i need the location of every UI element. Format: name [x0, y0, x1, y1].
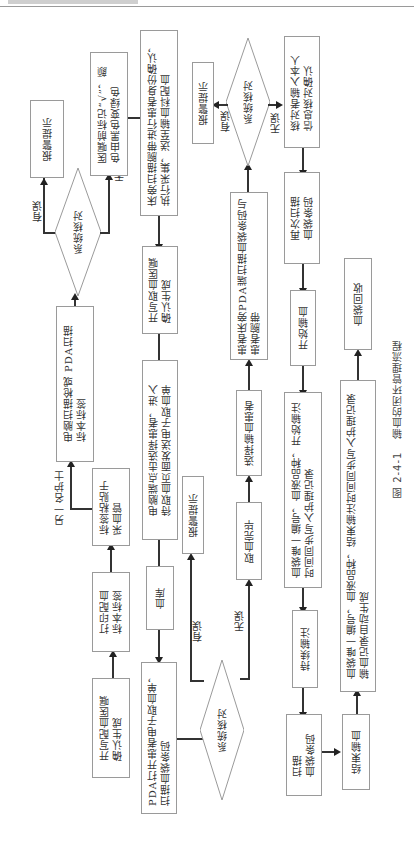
node-scan-bag-end: 扫描 血袋条码: [286, 714, 322, 796]
node-start-record: 血袋唯一编号，血液品种，开始输注 时间同步写入护理记录: [284, 392, 322, 588]
node-select-transfusion-patient: 选择输血患者: [236, 390, 262, 476]
node-blood-collection-order: 开写取血医嘱 确认生成: [142, 246, 178, 334]
node-rescan-bag: 再次扫描 血袋条码: [284, 172, 320, 264]
label-another-nurse: 另一名护士: [52, 470, 67, 525]
node-blood-pickup-done: 取血完毕: [236, 502, 262, 580]
node-end-transfusion: 结束输血: [342, 714, 370, 790]
label-error-3: 有误: [218, 110, 233, 132]
node-alarm-1: 报警提示: [30, 100, 64, 178]
node-blood-bank: 血库: [146, 566, 174, 630]
node-attach-label: 标签粘贴于 采血管: [92, 468, 130, 546]
header-divider: [0, 6, 414, 7]
node-start-transfusion: 开始输血: [290, 290, 316, 366]
node-pda-open-scan: PDA打开患者电子取血单， 扫描血袋条码: [141, 662, 177, 814]
figure-title: 输血的闭环管理流程: [392, 340, 403, 439]
node-alarm-2: 报警提示: [182, 476, 204, 554]
page-header-bar: [8, 0, 138, 4]
label-ok-2: 无误: [232, 610, 247, 632]
label-ok-3: 无误: [268, 112, 283, 134]
decision-system-check-3: 系统核对: [226, 38, 270, 166]
node-print-label: 打印配血 标本标签: [92, 572, 130, 652]
node-continuous-infusion: 持续输注: [292, 610, 318, 688]
node-bedside-pda-scan-bag-wristband: 患者床旁PDA端扫描血袋条码与 患者腕带: [230, 192, 268, 360]
node-verifier-confirm: 核对者输入本人 信息核对确认: [284, 36, 320, 148]
decision-system-check-1: 系统核对: [55, 168, 101, 296]
figure-number: 图 2-4-1: [392, 452, 403, 498]
node-order-mark: 医嘱前标记“√”，颜 色由黑色变绿色: [90, 52, 128, 176]
decision-system-check-2: 系统核对: [200, 660, 244, 800]
node-bedside-scan-collect: 床旁扫描腕带进行患者身份确认， 执行采集，送至输血科配血: [140, 30, 178, 216]
label-error-2: 有误: [190, 620, 205, 642]
node-bag-recycle: 血袋回收: [344, 258, 372, 350]
node-select-patient-send: 电脑端点击选择患者，进入 待取血页面发送电子取血单: [142, 360, 178, 540]
node-end-record: 血袋唯一编号，血液品种，结束输注时间同步写入护理记录 输血记录自动生成: [340, 380, 376, 692]
node-crossmatch-order: 开写配血医嘱 确认生成: [92, 678, 130, 778]
node-alarm-3: 报警提示: [192, 62, 214, 144]
figure-caption: 图 2-4-1 输血的闭环管理流程: [390, 340, 405, 498]
node-scan-specimen-label: 电脑扫描枪或 PDA扫描 标本标签: [56, 306, 94, 462]
